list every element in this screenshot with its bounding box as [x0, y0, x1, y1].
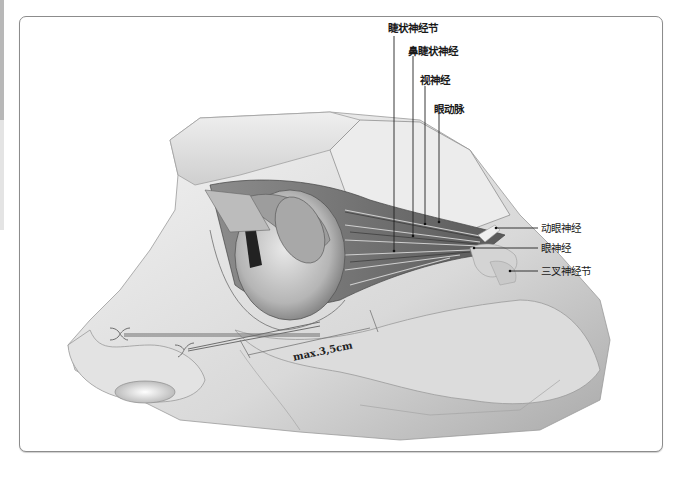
label-optic-nerve: 视神经 [420, 74, 450, 86]
label-ophthalmic-artery: 眼动脉 [434, 103, 464, 115]
label-ophthalmic-nerve: 眼神经 [541, 242, 571, 254]
orbit-anatomy-illustration [0, 0, 679, 477]
label-nasociliary-nerve: 鼻睫状神经 [408, 45, 458, 57]
label-ciliary-ganglion: 睫状神经节 [388, 22, 438, 34]
label-oculomotor-nerve: 动眼神经 [541, 222, 581, 234]
label-trigeminal-ganglion: 三叉神经节 [541, 265, 591, 277]
